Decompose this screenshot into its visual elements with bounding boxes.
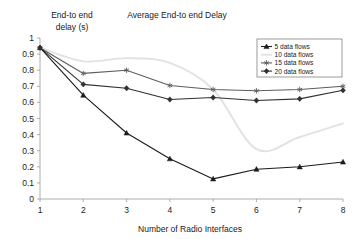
y-axis-label-line2: delay (s) — [56, 22, 89, 32]
chart-container: Average End-to end Delay End-to end dela… — [0, 0, 354, 239]
chart-title: Average End-to end Delay — [127, 10, 227, 20]
y-tick-label: 0.5 — [22, 114, 34, 124]
x-tick-label: 2 — [81, 205, 86, 215]
y-tick-label: 0.8 — [22, 65, 34, 75]
data-point-marker — [124, 86, 129, 91]
legend-label: 20 data flows — [275, 68, 315, 75]
data-point-marker — [341, 88, 346, 93]
data-point-marker — [211, 95, 216, 100]
chart-legend[interactable]: 5 data flows10 data flows15 data flows20… — [257, 39, 342, 77]
y-tick-label: 0.2 — [22, 162, 34, 172]
y-tick-label: 0.9 — [22, 49, 34, 59]
data-point-marker — [297, 96, 302, 101]
y-tick-label: 0.7 — [22, 81, 34, 91]
data-point-marker — [167, 156, 172, 161]
y-tick-label: 0.1 — [22, 178, 34, 188]
y-axis-tick-labels: 00.10.20.30.40.50.60.70.80.91 — [22, 33, 40, 204]
x-tick-label: 7 — [297, 205, 302, 215]
data-point-marker — [167, 97, 172, 102]
y-tick-label: 1 — [29, 33, 34, 43]
x-tick-label: 6 — [254, 205, 259, 215]
legend-label: 5 data flows — [275, 43, 311, 50]
data-point-marker — [254, 98, 259, 103]
x-tick-label: 1 — [38, 205, 43, 215]
y-axis-label-line1: End-to end — [51, 10, 93, 20]
x-tick-label: 3 — [124, 205, 129, 215]
legend-label: 15 data flows — [275, 59, 315, 66]
x-tick-label: 4 — [167, 205, 172, 215]
y-tick-label: 0.3 — [22, 146, 34, 156]
x-tick-label: 5 — [211, 205, 216, 215]
y-tick-label: 0.6 — [22, 97, 34, 107]
average-end-to-end-delay-chart: Average End-to end Delay End-to end dela… — [0, 0, 354, 239]
y-tick-label: 0 — [29, 194, 34, 204]
y-tick-label: 0.4 — [22, 130, 34, 140]
x-tick-label: 8 — [341, 205, 346, 215]
legend-label: 10 data flows — [275, 51, 315, 58]
x-axis-tick-labels: 12345678 — [38, 199, 346, 215]
x-axis-label: Number of Radio Interfaces — [138, 224, 242, 234]
